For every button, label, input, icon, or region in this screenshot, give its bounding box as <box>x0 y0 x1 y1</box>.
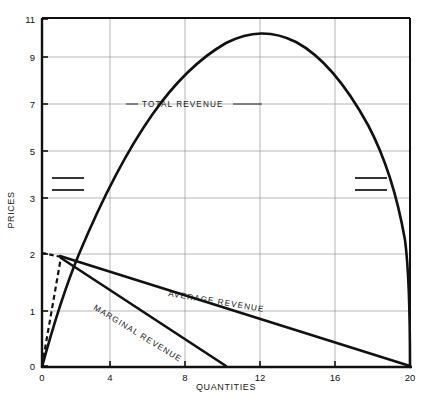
ytick-label-5: 5 <box>30 146 35 157</box>
ytick-label-7: 7 <box>30 99 35 110</box>
revenue-chart: 11 9 7 5 3 2 1 0 0 4 8 12 16 20 QUANTITI… <box>0 0 430 393</box>
xtick-label-0: 0 <box>39 372 44 383</box>
chart-background <box>0 0 430 393</box>
xtick-label-12: 12 <box>255 372 266 383</box>
xtick-label-8: 8 <box>182 372 187 383</box>
ytick-label-9: 9 <box>30 52 35 63</box>
ytick-label-3: 3 <box>30 193 35 204</box>
chart-svg: 11 9 7 5 3 2 1 0 0 4 8 12 16 20 QUANTITI… <box>0 0 430 393</box>
xtick-label-16: 16 <box>330 372 341 383</box>
ytick-label-1: 1 <box>30 306 35 317</box>
xtick-label-4: 4 <box>107 372 112 383</box>
x-axis-title: QUANTITIES <box>196 382 256 392</box>
ytick-label-11: 11 <box>25 14 35 25</box>
ytick-label-2: 2 <box>30 249 35 260</box>
ytick-label-0: 0 <box>30 361 35 372</box>
y-axis-title: PRICES <box>6 191 16 228</box>
xtick-label-20: 20 <box>405 372 416 383</box>
total-revenue-label: TOTAL REVENUE <box>142 100 223 109</box>
